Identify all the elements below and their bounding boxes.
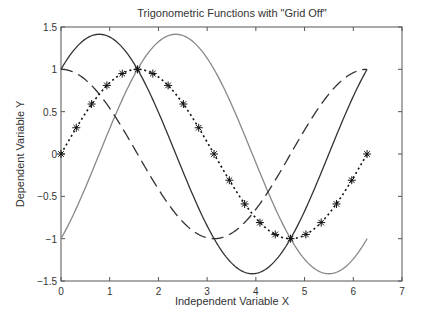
chart-title: Trigonometric Functions with "Grid Off" xyxy=(137,7,326,19)
asterisk-marker xyxy=(302,230,310,238)
y-tick-label: 1.5 xyxy=(43,22,57,33)
axis-ticks: 012345671.510.50−0.5−1−1.5 xyxy=(37,22,405,297)
y-tick-label: −1.5 xyxy=(37,276,57,287)
x-axis-label: Independent Variable X xyxy=(175,295,290,307)
asterisk-marker xyxy=(348,176,356,184)
asterisk-marker xyxy=(317,219,325,227)
x-tick-label: 5 xyxy=(302,286,308,297)
y-axis-label: Dependent Variable Y xyxy=(14,100,26,207)
y-tick-label: −0.5 xyxy=(37,191,57,202)
asterisk-marker xyxy=(72,124,80,132)
asterisk-marker xyxy=(88,100,96,108)
asterisk-marker xyxy=(164,81,172,89)
plot-area xyxy=(61,27,402,281)
y-tick-label: −1 xyxy=(46,234,58,245)
asterisk-marker xyxy=(225,176,233,184)
x-tick-label: 0 xyxy=(58,286,64,297)
asterisk-marker xyxy=(256,219,264,227)
asterisk-marker xyxy=(57,150,65,158)
asterisk-marker xyxy=(271,230,279,238)
asterisk-marker xyxy=(363,150,371,158)
y-tick-label: 0 xyxy=(51,149,57,160)
x-tick-label: 7 xyxy=(399,286,405,297)
series-group xyxy=(57,34,371,273)
asterisk-marker xyxy=(134,65,142,73)
chart: Trigonometric Functions with "Grid Off" … xyxy=(0,0,421,325)
asterisk-marker xyxy=(287,235,295,243)
asterisk-marker xyxy=(149,70,157,78)
asterisk-marker xyxy=(241,200,249,208)
asterisk-marker xyxy=(210,150,218,158)
x-tick-label: 1 xyxy=(107,286,113,297)
asterisk-marker xyxy=(118,70,126,78)
y-tick-label: 1 xyxy=(51,64,57,75)
asterisk-marker xyxy=(195,124,203,132)
x-tick-label: 2 xyxy=(156,286,162,297)
x-tick-label: 6 xyxy=(351,286,357,297)
y-tick-label: 0.5 xyxy=(43,107,57,118)
